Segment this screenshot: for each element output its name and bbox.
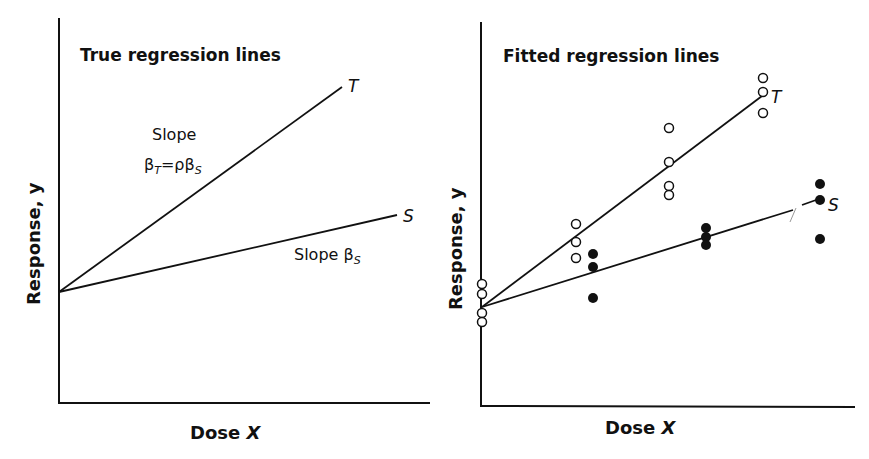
svg-text:βT=ρβS: βT=ρβS [144, 155, 202, 177]
label-S-left: S [403, 206, 414, 226]
x-axis-right [480, 406, 855, 407]
y-axis-label-right: Response, y [445, 187, 466, 310]
panel-fitted-regression: Fitted regression lines T S Response, y … [445, 22, 855, 438]
slope-T-formula: βT=ρβS [144, 155, 202, 177]
label-T-right: T [771, 87, 783, 107]
svg-text:Slope βS: Slope βS [294, 245, 361, 267]
line-S-fitted-end [802, 200, 816, 205]
label-T-left: T [348, 76, 360, 96]
panel-title-right: Fitted regression lines [503, 46, 719, 66]
line-S-fitted [482, 210, 793, 307]
line-T-fitted [482, 96, 762, 307]
label-S-right: S [828, 195, 839, 215]
y-axis-label-left: Response, y [23, 182, 44, 305]
slope-S-label: Slope βS [294, 245, 361, 267]
points-S-filled [588, 179, 825, 303]
figure: True regression lines T S Slope βT=ρβS S… [0, 0, 869, 459]
panel-true-regression: True regression lines T S Slope βT=ρβS S… [23, 18, 430, 443]
slope-T-word: Slope [152, 125, 196, 144]
x-axis-label-left: Dose X [190, 422, 262, 443]
x-axis-label-right: Dose X [605, 417, 677, 438]
panel-title-left: True regression lines [80, 45, 281, 65]
